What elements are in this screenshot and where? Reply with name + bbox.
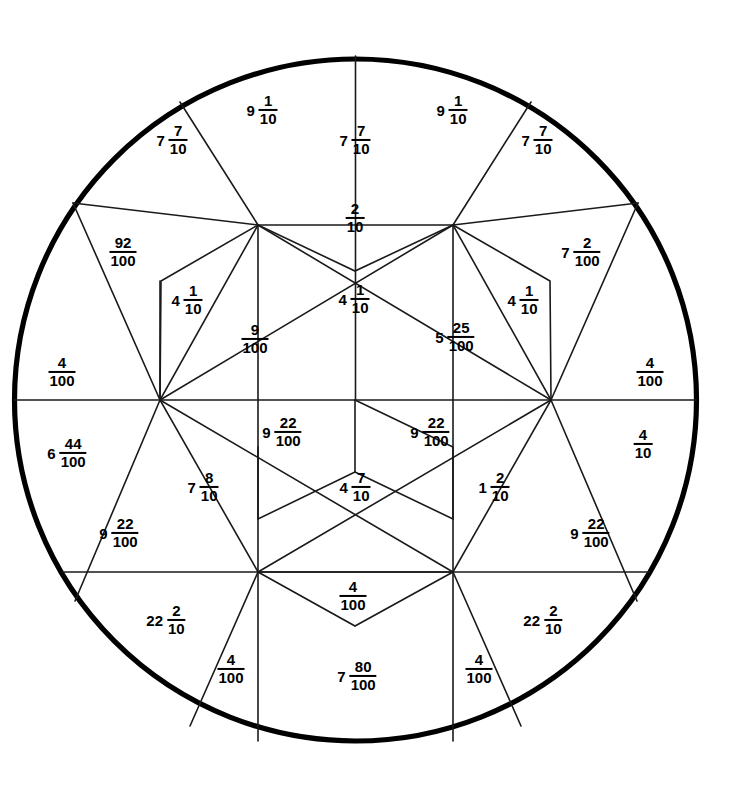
diagram-svg: [0, 0, 738, 792]
fraction-circle-figure: 9110911077107710771092100210721004110411…: [0, 0, 738, 792]
